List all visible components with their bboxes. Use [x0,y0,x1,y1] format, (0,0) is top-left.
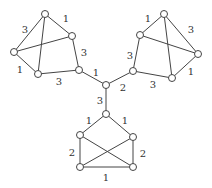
graph-node [103,82,110,89]
edge-weight-label: 3 [22,24,28,35]
graph-node [130,68,137,75]
edge [14,36,72,52]
edge-weight-label: 1 [86,115,92,126]
graph-node [35,71,42,78]
graph-node [103,111,110,118]
graph-node [130,164,137,171]
edge [38,70,79,74]
edge-weight-label: 2 [140,148,146,159]
edge [164,14,172,78]
graph-node [77,132,84,139]
graph-node [195,51,202,58]
edge [106,114,133,137]
edge-weight-label: 3 [81,47,87,58]
edge-weight-label: 1 [63,13,69,24]
edge-weight-label: 1 [188,66,194,77]
graph-node [169,75,176,82]
graph-node [11,49,18,56]
edge-weight-label: 2 [120,82,126,93]
graph-node [137,32,144,39]
edge-weight-label: 1 [17,64,23,75]
graph-node [161,11,168,18]
edge-weight-label: 3 [150,79,156,90]
edge [140,14,164,35]
graph-node [76,67,83,74]
edge [133,71,172,78]
edge-weight-label: 1 [93,67,99,78]
edge-weight-label: 3 [188,24,194,35]
edge-weight-label: 3 [56,76,62,87]
weighted-graph-diagram: 131331133132311221 [0,0,212,188]
graph-node [69,33,76,40]
edge [133,35,140,71]
edge-weight-label: 1 [145,13,151,24]
edge-weight-label: 1 [122,115,128,126]
graph-node [77,164,84,171]
graph-node [42,11,49,18]
edge-weight-label: 3 [97,95,103,106]
edges-layer [14,14,198,167]
edge-weight-label: 1 [103,172,109,183]
graph-node [130,134,137,141]
edge [72,36,79,70]
edge [14,14,45,52]
edge-weight-label: 2 [69,147,75,158]
edge-weight-label: 3 [127,50,133,61]
edge [80,114,106,135]
